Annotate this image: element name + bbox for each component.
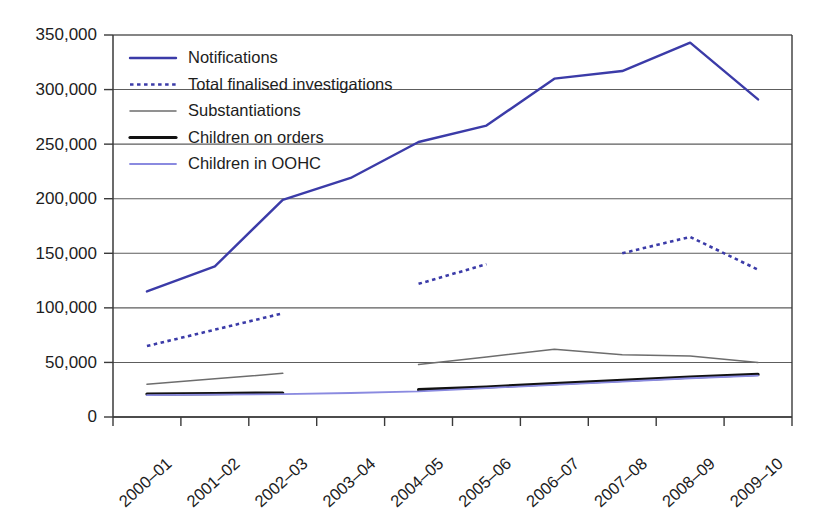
y-axis-tick-label: 50,000 <box>45 353 97 372</box>
x-axis-tick-label: 2007–08 <box>590 454 650 510</box>
x-axis-tick-label: 2002–03 <box>251 454 311 510</box>
series-line-total-finalised-investigations <box>147 313 283 346</box>
y-axis-tick-label: 250,000 <box>36 135 97 154</box>
x-axis-tick-label: 2006–07 <box>523 454 583 510</box>
legend-label-children-on-orders: Children on orders <box>188 128 324 146</box>
x-axis-tick-label: 2008–09 <box>658 454 718 510</box>
y-axis-tick-label: 200,000 <box>36 189 97 208</box>
x-axis: 2000–012001–022002–032003–042004–052005–… <box>113 417 792 510</box>
legend-label-notifications: Notifications <box>188 48 278 66</box>
x-axis-tick-label: 2001–02 <box>183 454 243 510</box>
line-chart: 050,000100,000150,000200,000250,000300,0… <box>0 0 814 512</box>
y-axis-tick-label: 350,000 <box>36 25 97 44</box>
series-line-total-finalised-investigations <box>419 264 487 284</box>
y-axis-tick-label: 100,000 <box>36 298 97 317</box>
chart-legend: NotificationsTotal finalised investigati… <box>130 48 393 172</box>
y-axis: 050,000100,000150,000200,000250,000300,0… <box>36 25 113 426</box>
legend-label-children-in-oohc: Children in OOHC <box>188 154 321 172</box>
y-axis-tick-label: 300,000 <box>36 80 97 99</box>
x-axis-tick-label: 2009–10 <box>726 454 786 510</box>
series-line-substantiations <box>147 373 283 384</box>
y-axis-tick-label: 150,000 <box>36 244 97 263</box>
x-axis-tick-label: 2005–06 <box>455 454 515 510</box>
legend-label-total-finalised-investigations: Total finalised investigations <box>188 75 393 93</box>
chart-container: 050,000100,000150,000200,000250,000300,0… <box>0 0 814 512</box>
data-series <box>147 43 758 396</box>
x-axis-tick-label: 2000–01 <box>115 454 175 510</box>
y-axis-tick-label: 0 <box>88 407 97 426</box>
x-axis-tick-label: 2003–04 <box>319 454 379 510</box>
legend-label-substantiations: Substantiations <box>188 101 301 119</box>
x-axis-tick-label: 2004–05 <box>387 454 447 510</box>
